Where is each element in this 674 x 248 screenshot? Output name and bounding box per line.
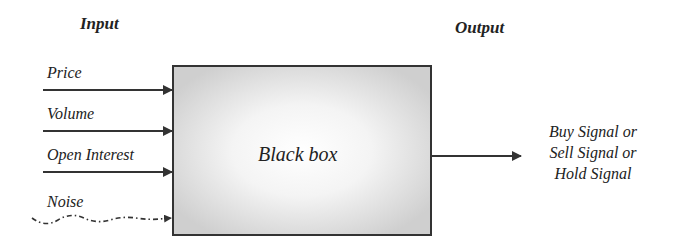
arrow-noise — [32, 215, 171, 223]
output-signals: Buy Signal or Sell Signal or Hold Signal — [528, 121, 658, 184]
output-line-buy: Buy Signal or — [528, 121, 658, 142]
output-line-hold: Hold Signal — [528, 163, 658, 184]
black-box-label: Black box — [258, 143, 337, 166]
output-line-sell: Sell Signal or — [528, 142, 658, 163]
